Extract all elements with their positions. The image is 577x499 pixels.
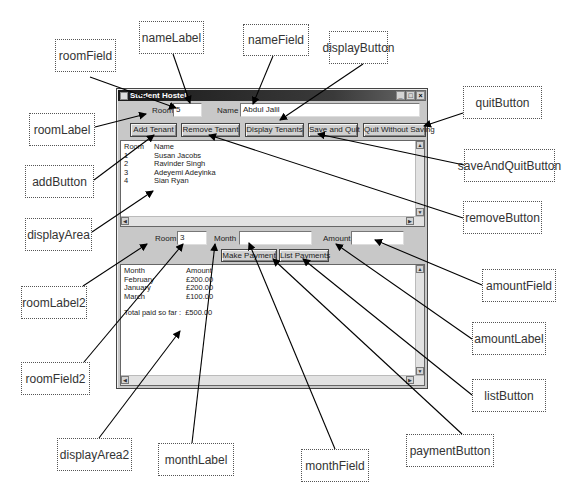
month-label: Month: [214, 234, 236, 243]
room-label-2: Room: [155, 234, 176, 243]
save-and-quit-button[interactable]: Save and Quit: [308, 123, 358, 137]
callout-quitButton: quitButton: [463, 86, 542, 119]
display-area-2[interactable]: Month Amount February£200.00 January£200…: [120, 264, 425, 386]
app-icon: [120, 92, 128, 100]
close-icon[interactable]: ×: [416, 91, 425, 100]
room-cell: 3: [124, 169, 154, 178]
room-cell: 1: [124, 152, 154, 161]
callout-saveAndQuitButton: saveAndQuitButton: [464, 149, 555, 182]
maximize-icon[interactable]: □: [406, 91, 415, 100]
total-label: Total paid so far :: [124, 309, 181, 318]
horizontal-scrollbar[interactable]: ◀ ▶: [121, 216, 424, 226]
callout-roomField: roomField: [55, 39, 116, 72]
callout-displayButton: displayButton: [329, 31, 388, 64]
list-item: March£100.00: [124, 293, 213, 302]
callout-amountLabel: amountLabel: [472, 322, 546, 355]
list-payments-button[interactable]: List Payments: [279, 249, 329, 262]
student-hostel-window: Student Hostel _ □ × Room 5 Name Abdul J…: [116, 88, 428, 389]
callout-paymentButton: paymentButton: [406, 434, 494, 467]
total-row: Total paid so far : £500.00: [124, 309, 213, 318]
name-label: Name: [217, 106, 238, 115]
scroll-left-icon[interactable]: ◀: [121, 217, 129, 225]
month-field[interactable]: [239, 231, 312, 245]
tenant-list: Room Name 1Susan Jacobs 2Ravinder Singh …: [124, 143, 216, 186]
scroll-right-icon[interactable]: ▶: [406, 376, 414, 384]
amount-label: Amount: [323, 234, 351, 243]
callout-removeButton: removeButton: [463, 201, 542, 234]
vertical-scrollbar[interactable]: ▲ ▼: [415, 141, 424, 216]
display-tenants-button[interactable]: Display Tenants: [245, 123, 304, 137]
amount-cell: £100.00: [186, 293, 213, 302]
display-area[interactable]: Room Name 1Susan Jacobs 2Ravinder Singh …: [120, 140, 425, 227]
callout-displayArea2: displayArea2: [57, 438, 132, 471]
callout-roomLabel: roomLabel: [29, 113, 95, 146]
make-payment-button[interactable]: Make Payment: [221, 249, 277, 262]
list-item: 4Sian Ryan: [124, 177, 216, 186]
col-room: Room: [124, 143, 154, 152]
scroll-left-icon[interactable]: ◀: [121, 376, 129, 384]
name-field[interactable]: Abdul Jalil: [240, 103, 420, 117]
scroll-right-icon[interactable]: ▶: [406, 217, 414, 225]
room-label: Room: [152, 106, 173, 115]
callout-monthField: monthField: [301, 449, 369, 482]
callout-addButton: addButton: [25, 165, 94, 198]
scroll-up-icon[interactable]: ▲: [416, 265, 424, 273]
callout-nameLabel: nameLabel: [139, 21, 204, 54]
callout-nameField: nameField: [243, 24, 309, 56]
horizontal-scrollbar-2[interactable]: ◀ ▶: [121, 375, 424, 385]
remove-tenant-button[interactable]: Remove Tenant: [181, 123, 240, 137]
scroll-down-icon[interactable]: ▼: [416, 367, 424, 375]
callout-monthLabel: monthLabel: [158, 443, 234, 476]
callout-roomField2: roomField2: [21, 362, 90, 395]
amount-field[interactable]: [351, 231, 404, 245]
total-value: £500.00: [185, 309, 212, 318]
minimize-icon[interactable]: _: [396, 91, 405, 100]
scroll-up-icon[interactable]: ▲: [416, 141, 424, 149]
add-tenant-button[interactable]: Add Tenant: [130, 123, 177, 137]
month-cell: March: [124, 293, 186, 302]
callout-displayArea: displayArea: [25, 218, 92, 251]
window-title: Student Hostel: [130, 90, 186, 101]
callout-roomLabel2: roomLabel2: [21, 286, 87, 319]
room-field[interactable]: 5: [173, 103, 202, 117]
quit-without-saving-button[interactable]: Quit Without Saving: [363, 123, 426, 137]
payment-list: Month Amount February£200.00 January£200…: [124, 267, 213, 318]
callout-amountField: amountField: [482, 269, 556, 302]
vertical-scrollbar-2[interactable]: ▲ ▼: [415, 265, 424, 375]
callout-listButton: listButton: [472, 379, 546, 412]
title-bar[interactable]: Student Hostel _ □ ×: [118, 90, 426, 101]
room-field-2[interactable]: 3: [177, 231, 207, 245]
room-cell: 2: [124, 160, 154, 169]
scroll-down-icon[interactable]: ▼: [416, 208, 424, 216]
name-cell: Sian Ryan: [154, 177, 189, 186]
room-cell: 4: [124, 177, 154, 186]
